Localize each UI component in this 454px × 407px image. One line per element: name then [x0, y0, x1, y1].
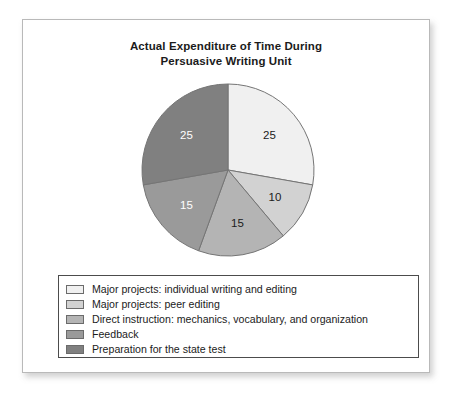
pie-slice-value-label: 15 — [231, 217, 244, 229]
legend-item-label: Direct instruction: mechanics, vocabular… — [92, 313, 368, 325]
legend-item: Preparation for the state test — [66, 342, 418, 356]
pie-chart-svg: 2510151525 — [141, 83, 315, 257]
pie-slice-value-label: 25 — [180, 129, 193, 141]
chart-title: Actual Expenditure of Time During Persua… — [23, 39, 429, 69]
legend-item-label: Major projects: individual writing and e… — [92, 283, 297, 295]
pie-slice-value-label: 10 — [269, 191, 282, 203]
legend-item-label: Feedback — [92, 328, 139, 340]
legend-item: Major projects: individual writing and e… — [66, 282, 418, 296]
legend-swatch-icon — [66, 315, 84, 324]
legend-item-label: Major projects: peer editing — [92, 298, 220, 310]
chart-title-line-2: Persuasive Writing Unit — [23, 54, 429, 69]
legend-swatch-icon — [66, 345, 84, 354]
pie-slice-value-label: 25 — [263, 129, 276, 141]
pie-chart: 2510151525 — [141, 83, 315, 257]
legend-item: Direct instruction: mechanics, vocabular… — [66, 312, 418, 326]
chart-legend: Major projects: individual writing and e… — [58, 275, 419, 358]
legend-item-label: Preparation for the state test — [92, 343, 226, 355]
legend-item: Major projects: peer editing — [66, 297, 418, 311]
legend-swatch-icon — [66, 285, 84, 294]
chart-card: Actual Expenditure of Time During Persua… — [22, 19, 430, 373]
legend-item: Feedback — [66, 327, 418, 341]
chart-title-line-1: Actual Expenditure of Time During — [23, 39, 429, 54]
legend-swatch-icon — [66, 300, 84, 309]
pie-slice-value-label: 15 — [180, 199, 193, 211]
legend-swatch-icon — [66, 330, 84, 339]
